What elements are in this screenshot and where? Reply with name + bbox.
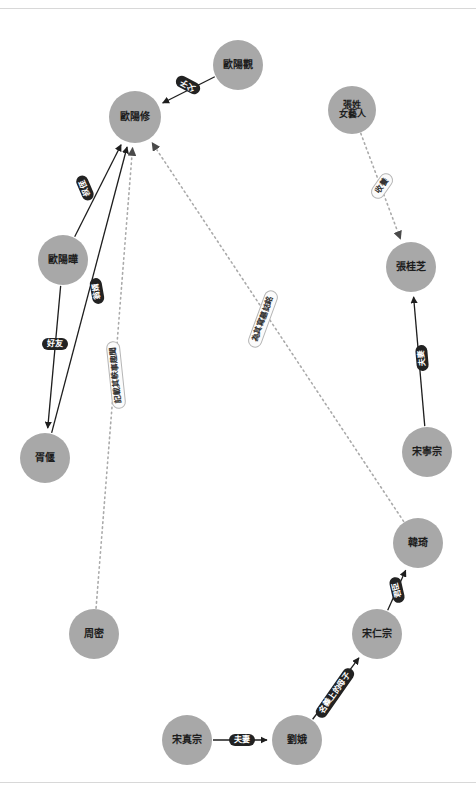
graph-node-ouyangxiu[interactable]: 歐陽修 [109, 91, 161, 143]
graph-edge-e4 [48, 286, 61, 428]
node-label: 宋仁宗 [362, 629, 392, 640]
graph-node-liue[interactable]: 劉娥 [272, 715, 322, 765]
top-divider [0, 8, 476, 9]
relationship-graph-canvas: 歐陽觀歐陽修張姓 女藝人歐陽曄張桂芝胥偃宋寧宗韓琦周密宋仁宗宋真宗劉娥 父子叔侄… [0, 0, 476, 792]
node-label: 胥偃 [35, 453, 55, 464]
edge-label-e10: 名義上的母子 [313, 666, 356, 720]
edge-label-e1: 父子 [174, 74, 203, 97]
edge-label-e11: 夫妻 [229, 734, 255, 746]
graph-node-zhoumi[interactable]: 周密 [69, 609, 119, 659]
bottom-divider [0, 782, 476, 783]
edge-label-e4: 好友 [42, 338, 68, 350]
node-label: 劉娥 [287, 735, 307, 746]
node-label: 歐陽曄 [48, 255, 78, 266]
graph-node-zhangartist[interactable]: 張姓 女藝人 [328, 86, 376, 134]
edge-layer [0, 0, 476, 792]
edge-label-e8: 夫妻 [415, 345, 429, 372]
graph-node-zhangguizhi[interactable]: 張桂芝 [386, 242, 436, 292]
node-label: 周密 [84, 629, 104, 640]
edge-label-e2: 叔侄 [74, 174, 95, 203]
node-label: 宋真宗 [172, 735, 202, 746]
edge-label-e7: 收養 [368, 171, 396, 202]
edge-label-e3: 翁婿 [89, 277, 105, 305]
node-label: 張桂芝 [396, 262, 426, 273]
node-label: 歐陽觀 [223, 60, 253, 71]
node-label: 宋寧宗 [412, 447, 442, 458]
graph-node-ouyangguan[interactable]: 歐陽觀 [213, 40, 263, 90]
edge-label-e5: 記載其軼事趣聞 [105, 340, 126, 409]
graph-node-songningzong[interactable]: 宋寧宗 [402, 427, 452, 477]
node-label: 韓琦 [408, 538, 428, 549]
graph-node-ouyangye[interactable]: 歐陽曄 [38, 235, 88, 285]
graph-node-songzhenzong[interactable]: 宋真宗 [162, 715, 212, 765]
graph-node-hanqi[interactable]: 韓琦 [393, 518, 443, 568]
node-label: 張姓 女藝人 [339, 101, 366, 120]
graph-edge-e6 [152, 143, 403, 522]
graph-node-songrenzong[interactable]: 宋仁宗 [352, 609, 402, 659]
edge-label-e6: 為其寫墓誌銘 [246, 288, 280, 349]
graph-node-xuyan[interactable]: 胥偃 [20, 433, 70, 483]
edge-label-e9: 君臣 [388, 576, 406, 604]
node-label: 歐陽修 [120, 112, 150, 123]
